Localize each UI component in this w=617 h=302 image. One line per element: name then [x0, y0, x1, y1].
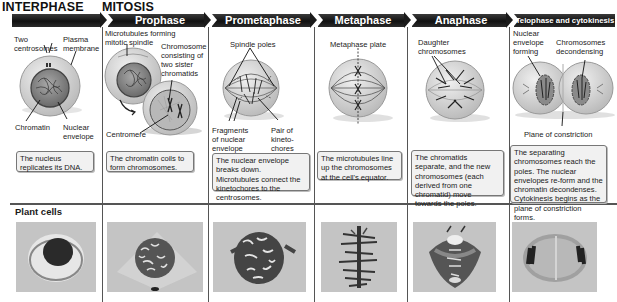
label-plane-of-constriction: Plane of constriction	[524, 130, 592, 139]
telophase-description: The separating chromosomes reach the pol…	[510, 145, 607, 203]
anaphase-micrograph	[413, 222, 496, 292]
prometaphase-micrograph	[213, 222, 306, 292]
interphase-micrograph	[16, 222, 96, 292]
metaphase-micrograph	[321, 222, 397, 292]
prophase-micrograph	[107, 222, 203, 292]
plant-cells-heading: Plant cells	[15, 206, 62, 217]
telophase-micrograph	[512, 222, 597, 292]
